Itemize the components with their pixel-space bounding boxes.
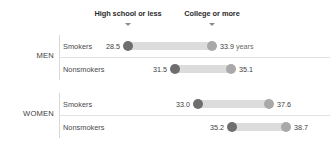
column-marker-college-icon	[209, 23, 215, 26]
dot-high-school-or-less[interactable]	[123, 41, 133, 51]
dot-college-or-more[interactable]	[207, 41, 217, 51]
dot-college-or-more[interactable]	[226, 64, 236, 74]
column-header-college: College or more	[184, 9, 240, 18]
dot-high-school-or-less[interactable]	[170, 64, 180, 74]
value-label-high-number: 33.9	[220, 42, 234, 51]
row-label: Nonsmokers	[63, 123, 104, 132]
value-label-high: 35.1	[239, 65, 253, 74]
dumbbell-chart: High school or less College or more MEN …	[0, 0, 332, 147]
dumbbell-track	[232, 123, 286, 131]
dot-high-school-or-less[interactable]	[227, 122, 237, 132]
column-header-high-school: High school or less	[94, 9, 161, 18]
column-marker-high-school-icon	[125, 23, 131, 26]
value-label-high: 37.6	[277, 100, 291, 109]
dumbbell-track	[128, 42, 212, 50]
dot-high-school-or-less[interactable]	[193, 99, 203, 109]
value-label-low: 31.5	[127, 65, 167, 74]
dumbbell-track	[198, 100, 269, 108]
value-label-low: 35.2	[184, 123, 224, 132]
value-label-low: 28.5	[80, 42, 120, 51]
chart-row: Smokers 28.5 33.9 years	[0, 35, 332, 57]
dot-college-or-more[interactable]	[264, 99, 274, 109]
value-label-high-unit: years	[234, 42, 254, 51]
value-label-high: 33.9 years	[220, 42, 254, 51]
value-label-high-number: 37.6	[277, 100, 291, 109]
row-label: Nonsmokers	[63, 65, 104, 74]
chart-row: Nonsmokers 35.2 38.7	[0, 116, 332, 138]
value-label-high-number: 35.1	[239, 65, 253, 74]
value-label-high-number: 38.7	[294, 123, 308, 132]
dumbbell-track	[175, 65, 231, 73]
chart-row: Nonsmokers 31.5 35.1	[0, 58, 332, 80]
value-label-low: 33.0	[150, 100, 190, 109]
row-label: Smokers	[63, 100, 92, 109]
chart-row: Smokers 33.0 37.6	[0, 93, 332, 115]
value-label-high: 38.7	[294, 123, 308, 132]
dot-college-or-more[interactable]	[281, 122, 291, 132]
